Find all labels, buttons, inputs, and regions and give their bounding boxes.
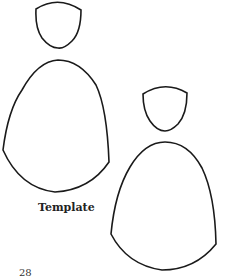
- figure-1-head: [36, 2, 81, 48]
- figure-1: [3, 2, 109, 192]
- figure-2: [111, 87, 216, 270]
- figure-2-body: [111, 142, 216, 270]
- template-label: Template: [38, 201, 95, 214]
- page-number: 28: [19, 267, 32, 278]
- figure-2-head: [143, 87, 187, 131]
- figure-1-body: [3, 60, 109, 192]
